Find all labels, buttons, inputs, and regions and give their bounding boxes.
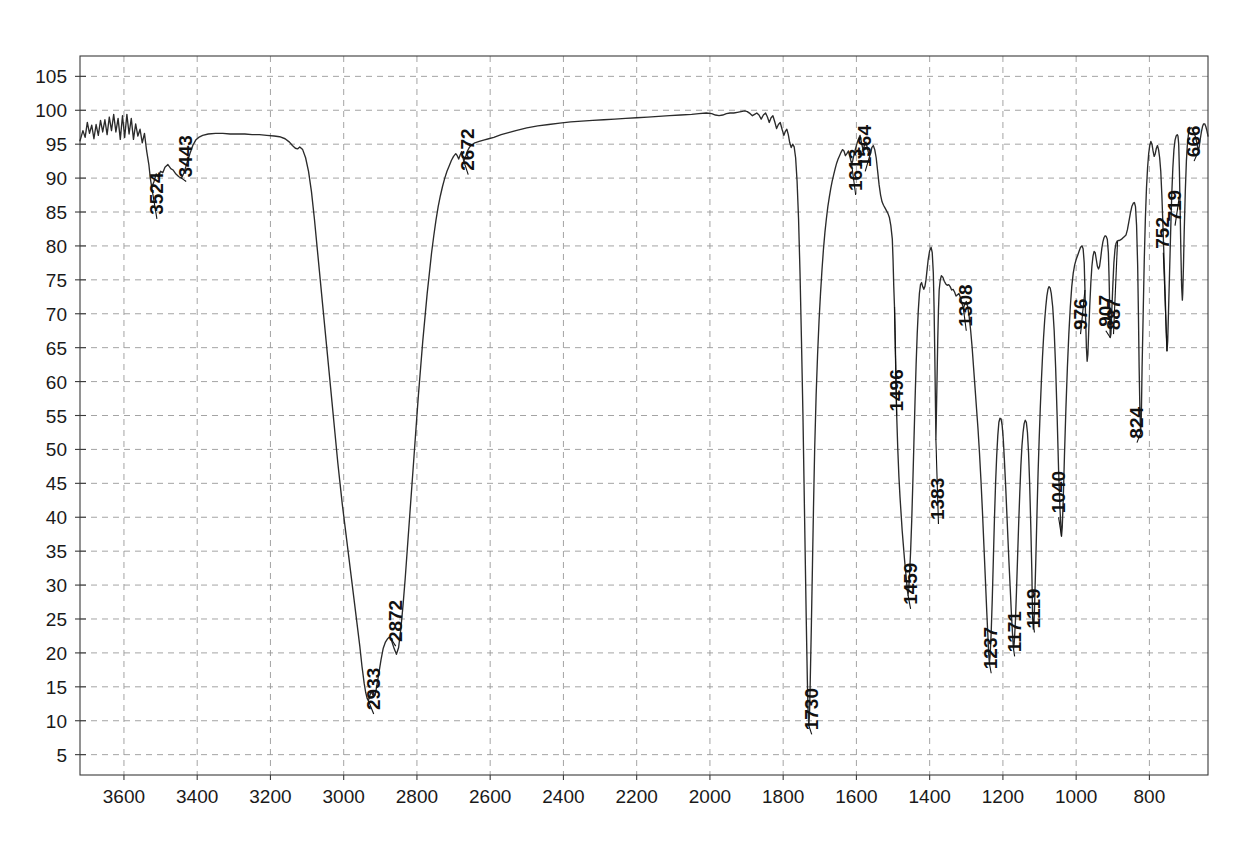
peak-label-1237: 1237 bbox=[980, 627, 1001, 669]
y-tick-label-10: 10 bbox=[46, 711, 67, 732]
y-tick-label-45: 45 bbox=[46, 473, 67, 494]
y-tick-label-105: 105 bbox=[35, 66, 67, 87]
y-tick-label-65: 65 bbox=[46, 338, 67, 359]
peak-label-1171: 1171 bbox=[1004, 611, 1025, 653]
y-tick-label-30: 30 bbox=[46, 575, 67, 596]
spectrum-canvas: 3600340032003000280026002400220020001800… bbox=[0, 0, 1257, 849]
y-tick-label-5: 5 bbox=[56, 745, 67, 766]
peak-label-1040: 1040 bbox=[1048, 471, 1069, 513]
peak-label-1119: 1119 bbox=[1023, 588, 1044, 628]
peak-label-1383: 1383 bbox=[927, 478, 948, 520]
figure-background bbox=[0, 0, 1257, 849]
x-tick-label-800: 800 bbox=[1134, 786, 1166, 807]
x-tick-label-1800: 1800 bbox=[762, 786, 804, 807]
ir-spectrum-figure: 3600340032003000280026002400220020001800… bbox=[0, 0, 1257, 849]
x-tick-label-3600: 3600 bbox=[103, 786, 145, 807]
peak-label-3524: 3524 bbox=[146, 172, 167, 215]
peak-label-1459: 1459 bbox=[900, 563, 921, 605]
y-tick-label-85: 85 bbox=[46, 202, 67, 223]
y-tick-label-55: 55 bbox=[46, 406, 67, 427]
x-tick-label-1600: 1600 bbox=[835, 786, 877, 807]
peak-label-666: 666 bbox=[1183, 125, 1204, 157]
peak-label-1308: 1308 bbox=[955, 284, 976, 326]
y-tick-label-95: 95 bbox=[46, 134, 67, 155]
peak-label-2933: 2933 bbox=[363, 668, 384, 710]
peak-label-1564: 1564 bbox=[854, 125, 875, 168]
y-tick-label-75: 75 bbox=[46, 270, 67, 291]
y-tick-label-70: 70 bbox=[46, 304, 67, 325]
y-tick-label-25: 25 bbox=[46, 609, 67, 630]
peak-label-2872: 2872 bbox=[385, 600, 406, 642]
y-tick-label-40: 40 bbox=[46, 507, 67, 528]
peak-label-719: 719 bbox=[1164, 190, 1185, 222]
y-tick-label-20: 20 bbox=[46, 643, 67, 664]
y-tick-label-60: 60 bbox=[46, 372, 67, 393]
peak-label-3443: 3443 bbox=[175, 135, 196, 177]
y-tick-label-80: 80 bbox=[46, 236, 67, 257]
x-tick-label-1400: 1400 bbox=[909, 786, 951, 807]
x-tick-label-3400: 3400 bbox=[176, 786, 218, 807]
peak-label-1730: 1730 bbox=[801, 688, 822, 730]
peak-label-976: 976 bbox=[1070, 298, 1091, 330]
y-tick-label-15: 15 bbox=[46, 677, 67, 698]
x-tick-label-2400: 2400 bbox=[542, 786, 584, 807]
x-tick-label-2200: 2200 bbox=[616, 786, 658, 807]
x-tick-label-1200: 1200 bbox=[982, 786, 1024, 807]
x-tick-label-2000: 2000 bbox=[689, 786, 731, 807]
x-tick-label-1000: 1000 bbox=[1055, 786, 1097, 807]
y-tick-label-90: 90 bbox=[46, 168, 67, 189]
peak-label-1496: 1496 bbox=[886, 369, 907, 411]
x-tick-label-3000: 3000 bbox=[323, 786, 365, 807]
y-tick-label-100: 100 bbox=[35, 100, 67, 121]
x-tick-label-2600: 2600 bbox=[469, 786, 511, 807]
x-tick-label-2800: 2800 bbox=[396, 786, 438, 807]
peak-label-824: 824 bbox=[1126, 406, 1147, 438]
peak-label-887: 887 bbox=[1103, 298, 1124, 330]
y-tick-label-35: 35 bbox=[46, 541, 67, 562]
y-tick-label-50: 50 bbox=[46, 439, 67, 460]
x-axis-tick-labels: 3600340032003000280026002400220020001800… bbox=[103, 786, 1165, 807]
x-tick-label-3200: 3200 bbox=[249, 786, 291, 807]
peak-label-2672: 2672 bbox=[457, 128, 478, 170]
